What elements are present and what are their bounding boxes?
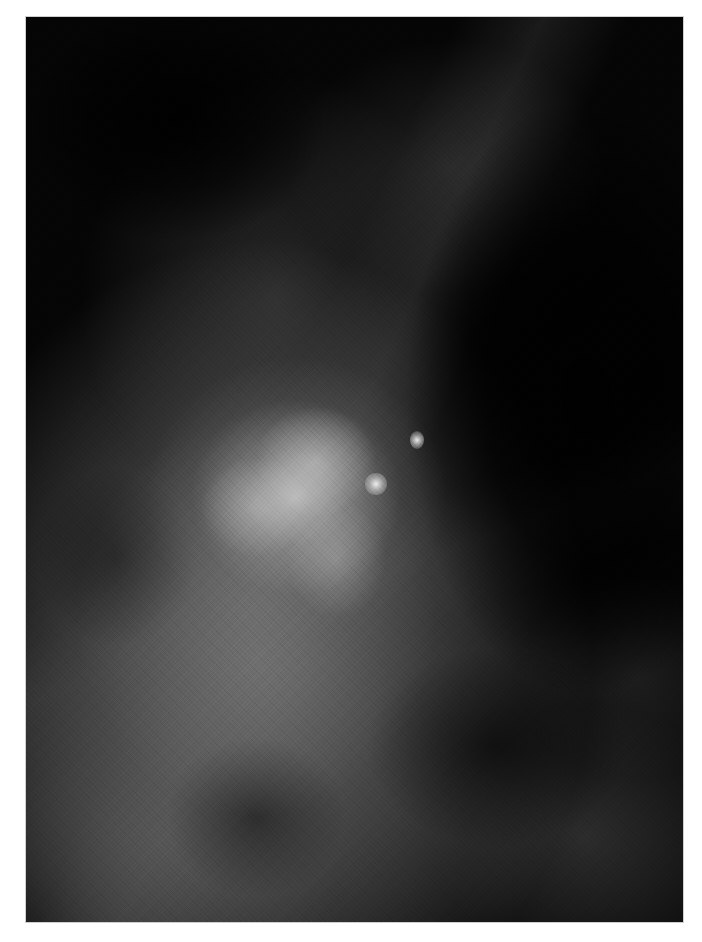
tissue-strands-layer (26, 17, 683, 922)
tissue-density-layer (26, 17, 683, 922)
dense-mass (26, 17, 683, 922)
bright-speck (365, 473, 387, 495)
page (0, 0, 702, 942)
film-grain-layer (26, 17, 683, 922)
bright-speck (410, 431, 424, 449)
radiograph-image (26, 17, 683, 922)
dark-region-layer (26, 17, 683, 922)
